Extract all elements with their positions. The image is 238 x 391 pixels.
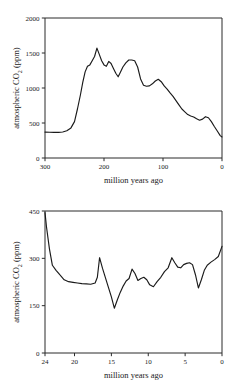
x-tick-label: 24 bbox=[42, 358, 50, 366]
chart-neogene-co2: 24201510500150300450 million years ago a… bbox=[0, 196, 238, 391]
x-tick-label: 0 bbox=[220, 163, 224, 171]
y-tick-label: 500 bbox=[29, 120, 40, 128]
y-tick-label: 2000 bbox=[26, 15, 41, 23]
chart-phanerozoic-co2: 30020010000500100015002000 million years… bbox=[0, 0, 238, 196]
axis-tick-labels-bottom: 24201510500150300450 bbox=[29, 208, 224, 366]
svg-text:atmospheric CO2 (ppm): atmospheric CO2 (ppm) bbox=[11, 47, 23, 129]
x-tick-label: 10 bbox=[145, 358, 153, 366]
axis-ticks-top bbox=[42, 18, 222, 161]
data-series-line-bottom bbox=[45, 213, 222, 309]
y-tick-label: 150 bbox=[29, 302, 40, 310]
y-tick-label: 300 bbox=[29, 255, 40, 263]
x-axis-title-top: million years ago bbox=[104, 175, 163, 185]
phanerozoic-co2-plot: 30020010000500100015002000 million years… bbox=[0, 0, 238, 196]
x-axis-title-bottom: million years ago bbox=[104, 370, 163, 380]
y-tick-label: 0 bbox=[36, 155, 40, 163]
neogene-co2-plot: 24201510500150300450 million years ago a… bbox=[0, 196, 238, 391]
y-tick-label: 0 bbox=[36, 350, 40, 358]
y-tick-label: 450 bbox=[29, 208, 40, 216]
plot-frame-top bbox=[45, 18, 222, 158]
x-tick-label: 100 bbox=[158, 163, 169, 171]
y-axis-title-top: atmospheric CO2 (ppm) bbox=[11, 47, 23, 129]
axis-ticks-bottom bbox=[42, 211, 222, 356]
svg-text:atmospheric CO2 (ppm): atmospheric CO2 (ppm) bbox=[11, 241, 23, 323]
x-tick-label: 300 bbox=[40, 163, 51, 171]
y-tick-label: 1000 bbox=[26, 85, 41, 93]
y-tick-label: 1500 bbox=[26, 50, 41, 58]
x-tick-label: 20 bbox=[71, 358, 79, 366]
y-axis-title-bottom: atmospheric CO2 (ppm) bbox=[11, 241, 23, 323]
x-tick-label: 0 bbox=[220, 358, 224, 366]
x-tick-label: 15 bbox=[108, 358, 116, 366]
x-tick-label: 5 bbox=[183, 358, 187, 366]
axis-tick-labels-top: 30020010000500100015002000 bbox=[26, 15, 225, 171]
data-series-line-top bbox=[45, 48, 222, 137]
x-tick-label: 200 bbox=[99, 163, 110, 171]
